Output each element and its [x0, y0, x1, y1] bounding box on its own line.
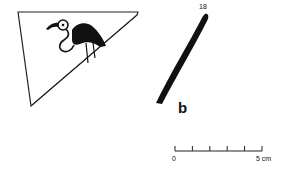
figure-canvas	[0, 0, 282, 172]
scale-end-label: 5 cm	[256, 155, 271, 162]
profile-number: 18	[199, 3, 207, 10]
vessel-profile	[156, 14, 208, 104]
scale-bar	[175, 146, 262, 151]
scale-start-label: 0	[172, 155, 176, 162]
profile-letter: b	[178, 100, 187, 115]
